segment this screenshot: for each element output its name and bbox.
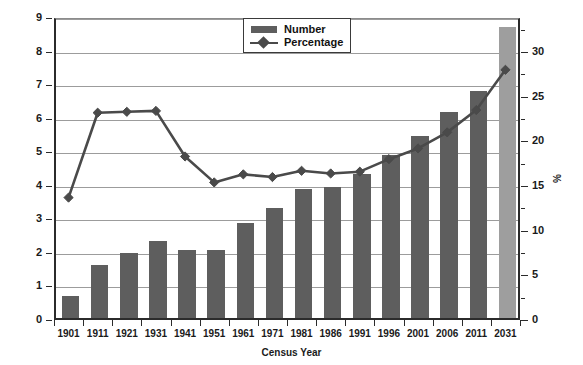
x-label-1961: 1961 (229, 329, 258, 339)
legend-item-number: Number (249, 23, 343, 35)
x-label-1971: 1971 (258, 329, 287, 339)
y-left-tick (46, 152, 52, 153)
bar-1941 (178, 250, 195, 318)
bar-2011 (470, 91, 487, 319)
y-right-minor-tick (521, 298, 525, 299)
y-left-tick (46, 253, 52, 254)
bar-1961 (237, 223, 254, 318)
bar-2001 (411, 136, 428, 318)
bar-1951 (207, 250, 224, 318)
y-right-minor-tick (521, 164, 525, 165)
x-tick (141, 320, 142, 326)
bar-1981 (295, 189, 312, 318)
y-right-tick (521, 320, 528, 321)
x-tick (345, 320, 346, 326)
legend-item-percentage: Percentage (249, 36, 343, 48)
y-right-tick (521, 97, 528, 98)
x-tick (54, 320, 55, 326)
x-tick (287, 320, 288, 326)
y-left-tick (46, 320, 52, 321)
x-tick (171, 320, 172, 326)
y-right-minor-tick (521, 30, 525, 31)
y-right-minor-tick (521, 119, 525, 120)
y-right-tick (521, 231, 528, 232)
y-left-label-5: 5 (14, 146, 42, 157)
y-left-tick (46, 219, 52, 220)
x-label-1911: 1911 (83, 329, 112, 339)
y-right-label-0: 0 (532, 314, 538, 325)
y-left-label-7: 7 (14, 79, 42, 90)
x-tick (316, 320, 317, 326)
x-tick (83, 320, 84, 326)
x-label-2006: 2006 (433, 329, 462, 339)
y-left-label-6: 6 (14, 113, 42, 124)
bar-1996 (382, 155, 399, 318)
x-tick (200, 320, 201, 326)
x-tick (112, 320, 113, 326)
legend: Number Percentage (243, 18, 351, 53)
census-chart: Millions % 0123456789 051015202530 19011… (0, 0, 583, 365)
y-right-minor-tick (521, 74, 525, 75)
y-right-minor-tick (521, 253, 525, 254)
x-label-1901: 1901 (54, 329, 83, 339)
x-label-1996: 1996 (374, 329, 403, 339)
y-left-tick (46, 286, 52, 287)
x-tick (433, 320, 434, 326)
y-right-tick (521, 186, 528, 187)
y-left-tick (46, 186, 52, 187)
x-label-1991: 1991 (345, 329, 374, 339)
y-right-label-20: 20 (532, 135, 544, 146)
x-label-2011: 2011 (462, 329, 491, 339)
x-label-1981: 1981 (287, 329, 316, 339)
y-left-tick (46, 119, 52, 120)
y-right-tick (521, 275, 528, 276)
bar-1971 (266, 208, 283, 318)
y-right-label-5: 5 (532, 269, 538, 280)
bar-1921 (120, 253, 137, 318)
y-left-label-4: 4 (14, 180, 42, 191)
y-axis-right-title: % (552, 174, 563, 183)
x-label-1951: 1951 (200, 329, 229, 339)
plot-area (54, 18, 520, 320)
y-left-tick (46, 85, 52, 86)
x-axis-title: Census Year (0, 347, 583, 358)
legend-bar-icon (249, 24, 279, 35)
y-left-label-0: 0 (14, 314, 42, 325)
y-left-tick (46, 52, 52, 53)
x-label-1931: 1931 (141, 329, 170, 339)
bar-2006 (440, 112, 457, 318)
y-left-label-2: 2 (14, 247, 42, 258)
bar-1911 (91, 265, 108, 318)
y-right-label-25: 25 (532, 91, 544, 102)
x-tick (258, 320, 259, 326)
bar-2031 (499, 27, 516, 318)
bar-1986 (324, 187, 341, 318)
bar-1931 (149, 241, 166, 318)
y-right-tick (521, 52, 528, 53)
legend-line-diamond-icon (249, 37, 279, 48)
y-right-label-30: 30 (532, 46, 544, 57)
y-left-tick (46, 18, 52, 19)
x-label-2031: 2031 (491, 329, 520, 339)
legend-label-percentage: Percentage (284, 36, 343, 48)
x-tick (374, 320, 375, 326)
x-label-1921: 1921 (112, 329, 141, 339)
y-left-label-9: 9 (14, 12, 42, 23)
x-label-2001: 2001 (404, 329, 433, 339)
x-label-1986: 1986 (316, 329, 345, 339)
y-left-label-8: 8 (14, 46, 42, 57)
y-right-tick (521, 141, 528, 142)
x-label-1941: 1941 (171, 329, 200, 339)
y-left-label-3: 3 (14, 213, 42, 224)
y-right-label-10: 10 (532, 225, 544, 236)
bar-1901 (62, 296, 79, 318)
x-tick (491, 320, 492, 326)
x-tick (404, 320, 405, 326)
y-left-label-1: 1 (14, 280, 42, 291)
x-tick (462, 320, 463, 326)
x-tick (520, 320, 521, 326)
y-right-label-15: 15 (532, 180, 544, 191)
bar-1991 (353, 174, 370, 318)
y-right-minor-tick (521, 208, 525, 209)
x-tick (229, 320, 230, 326)
